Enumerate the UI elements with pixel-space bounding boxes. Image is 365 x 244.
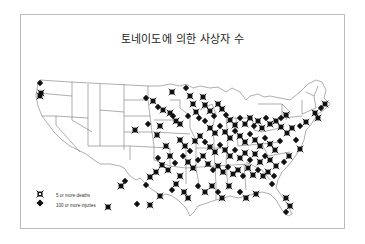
marker-icon [226, 183, 233, 190]
legend-label-injuries: 100 or more injuries [56, 203, 96, 208]
marker-icon [271, 173, 277, 179]
marker-icon [260, 173, 267, 180]
marker-icon [232, 147, 238, 153]
marker-icon [222, 147, 229, 154]
marker-icon [212, 149, 219, 156]
marker-icon [220, 169, 227, 176]
marker-icon [281, 159, 287, 165]
marker-icon [272, 147, 279, 154]
marker-icon [262, 153, 268, 159]
marker-icon [278, 124, 285, 131]
marker-icon [283, 209, 289, 215]
marker-icon [167, 153, 174, 160]
marker-icon [143, 182, 149, 188]
marker-icon [209, 183, 216, 190]
marker-icon [277, 138, 283, 144]
marker-icon [105, 204, 112, 211]
marker-icon [247, 115, 254, 122]
marker-icon [196, 115, 202, 121]
marker-icon [169, 89, 176, 96]
marker-icon [205, 161, 212, 168]
marker-icon [252, 137, 259, 144]
marker-icon [242, 139, 249, 146]
marker-icon [235, 167, 242, 174]
marker-icon [297, 123, 303, 129]
legend: 5 or more deaths 100 or more injuries [36, 190, 96, 210]
marker-icon [195, 183, 201, 189]
marker-icon [252, 151, 259, 158]
marker-icon [219, 106, 226, 113]
marker-icon [283, 195, 290, 202]
marker-icon [193, 109, 200, 116]
marker-icon [262, 135, 268, 141]
marker-icon [269, 181, 275, 187]
marker-icon [217, 123, 223, 129]
marker-icon [185, 159, 192, 166]
marker-icon [242, 150, 249, 157]
marker-icon [155, 155, 161, 161]
marker-icon [177, 173, 184, 180]
marker-icon [242, 121, 249, 128]
marker-icon [37, 93, 44, 100]
marker-icon [315, 115, 322, 122]
marker-icon [134, 201, 140, 207]
marker-icon [165, 167, 172, 174]
marker-icon [163, 143, 170, 150]
marker-icon [172, 160, 178, 166]
marker-icon [181, 189, 188, 196]
marker-icon [202, 189, 209, 196]
marker-icon [297, 146, 304, 153]
marker-icon [215, 163, 222, 170]
marker-icon [267, 157, 274, 164]
marker-icon [283, 112, 290, 119]
marker-icon [183, 85, 189, 91]
marker-icon [259, 125, 266, 132]
marker-icon [207, 108, 214, 115]
marker-icon [185, 195, 192, 202]
marker-icon [157, 123, 164, 130]
marker-icon [169, 187, 175, 193]
marker-icon [322, 101, 329, 108]
marker-icon [202, 118, 208, 124]
marker-icon [212, 130, 219, 137]
marker-icon [303, 119, 310, 126]
marker-icon [286, 153, 293, 160]
marker-icon [289, 125, 296, 132]
marker-icon [160, 107, 167, 114]
marker-icon [273, 163, 280, 170]
marker-icon [265, 169, 272, 176]
marker-icon [150, 98, 157, 105]
marker-icon [245, 165, 252, 172]
legend-item-deaths: 5 or more deaths [36, 190, 96, 200]
marker-icon [263, 115, 269, 121]
marker-icon [180, 153, 186, 159]
marker-icon [250, 172, 257, 179]
marker-icon [190, 101, 197, 108]
marker-icon [230, 171, 237, 178]
marker-icon [177, 121, 184, 128]
marker-icon [219, 195, 226, 202]
marker-icon [287, 203, 294, 210]
marker-icon [211, 113, 217, 119]
legend-label-deaths: 5 or more deaths [56, 193, 90, 198]
marker-icon [190, 165, 197, 172]
marker-icon [267, 141, 274, 148]
marker-icon [253, 191, 260, 198]
marker-icon [227, 135, 234, 142]
marker-icon [200, 153, 207, 160]
marker-icon [257, 143, 264, 150]
marker-icon [132, 127, 139, 134]
marker-icon [232, 122, 239, 129]
marker-icon [257, 159, 264, 166]
marker-icon [173, 181, 180, 188]
marker-icon [159, 162, 166, 169]
marker-icon [267, 121, 274, 128]
marker-icon [154, 132, 161, 139]
marker-icon [273, 118, 280, 125]
marker-icon [118, 183, 125, 190]
marker-icon [243, 195, 250, 202]
marker-icon [182, 143, 189, 150]
legend-item-injuries: 100 or more injuries [36, 200, 96, 210]
marker-icon [197, 133, 204, 140]
marker-icon [255, 118, 262, 125]
